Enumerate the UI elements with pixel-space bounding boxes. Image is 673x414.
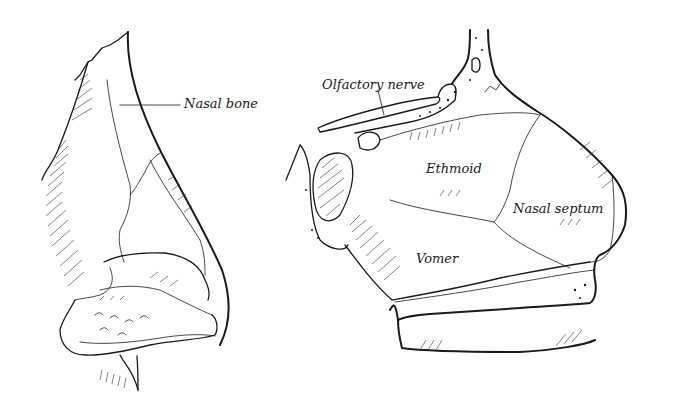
label-vomer: Vomer: [416, 252, 458, 265]
shading-hatch: [46, 74, 192, 388]
external-nose-drawing: [42, 32, 229, 390]
label-ethmoid: Ethmoid: [426, 162, 482, 175]
olfactory-nerve-leader-line: [378, 90, 384, 115]
anatomy-figure: Nasal bone Olfactory nerve Ethmoid Nasal…: [0, 0, 673, 414]
label-nasal-bone: Nasal bone: [184, 97, 258, 110]
label-nasal-septum: Nasal septum: [513, 202, 603, 215]
label-olfactory-nerve: Olfactory nerve: [322, 78, 425, 91]
septum-hatch: [318, 122, 612, 350]
